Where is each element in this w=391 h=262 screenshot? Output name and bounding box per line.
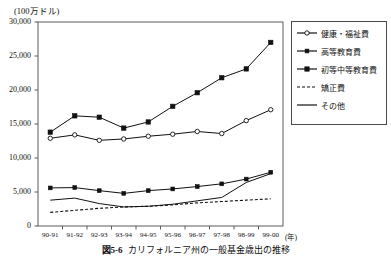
data-point-marker (305, 31, 309, 35)
data-point-marker (171, 104, 175, 108)
legend-item-label: その他 (321, 100, 345, 111)
data-point-marker (220, 76, 224, 80)
y-tick-label: 10,000 (0, 153, 31, 162)
y-tick-label: 5,000 (0, 187, 31, 196)
figure-container: (100万ドル) 健康・福祉費高等教育費初等中等教育費矯正費その他 図5-6カリ… (0, 0, 391, 262)
data-point-marker (305, 49, 309, 53)
data-point-marker (97, 115, 101, 119)
data-point-marker (73, 114, 77, 118)
y-tick-label: 30,000 (0, 17, 31, 26)
data-point-marker (220, 131, 224, 135)
legend-swatch-icon (296, 63, 318, 75)
data-point-marker (171, 187, 175, 191)
data-point-marker (146, 134, 150, 138)
data-point-marker (220, 182, 224, 186)
data-point-marker (48, 186, 52, 190)
data-point-marker (195, 129, 199, 133)
data-point-marker (244, 67, 248, 71)
data-point-marker (122, 137, 126, 141)
data-point-marker (244, 177, 248, 181)
series-line (50, 174, 271, 207)
data-point-marker (244, 118, 248, 122)
data-point-marker (122, 191, 126, 195)
data-point-marker (305, 67, 309, 71)
data-point-marker (171, 132, 175, 136)
caption-number: 図5-6 (102, 245, 123, 255)
legend-item-label: 初等中等教育費 (321, 64, 377, 75)
x-tick-label: 99-00 (255, 231, 287, 239)
legend-swatch-icon (296, 27, 318, 39)
legend-swatch-icon (296, 99, 318, 111)
data-point-marker (195, 91, 199, 95)
x-axis-unit-label: (年) (285, 231, 297, 242)
legend-swatch-icon (296, 81, 318, 93)
series-line (50, 42, 271, 132)
y-tick-label: 25,000 (0, 51, 31, 60)
figure-caption: 図5-6カリフォルニア州の一般基金歳出の推移 (0, 243, 391, 256)
caption-text: カリフォルニア州の一般基金歳出の推移 (128, 245, 290, 255)
data-point-marker (97, 189, 101, 193)
data-point-marker (97, 138, 101, 142)
data-point-marker (73, 186, 77, 190)
y-axis-unit-label: (100万ドル) (14, 4, 59, 16)
plot-frame (38, 22, 283, 226)
data-point-marker (146, 120, 150, 124)
legend-item-label: 矯正費 (321, 82, 345, 93)
data-point-marker (269, 108, 273, 112)
data-point-marker (48, 130, 52, 134)
series-line (50, 172, 271, 193)
y-tick-label: 15,000 (0, 119, 31, 128)
y-tick-label: 20,000 (0, 85, 31, 94)
legend-item-5: その他 (296, 98, 345, 112)
legend-item-2: 高等教育費 (296, 44, 361, 58)
legend-item-4: 矯正費 (296, 80, 345, 94)
y-tick-label: 0 (0, 221, 31, 230)
legend-item-3: 初等中等教育費 (296, 62, 377, 76)
chart-legend: 健康・福祉費高等教育費初等中等教育費矯正費その他 (291, 21, 387, 125)
data-point-marker (48, 136, 52, 140)
data-point-marker (73, 133, 77, 137)
legend-item-label: 健康・福祉費 (321, 28, 369, 39)
legend-swatch-icon (296, 45, 318, 57)
data-point-marker (195, 185, 199, 189)
data-point-marker (269, 40, 273, 44)
data-point-marker (146, 189, 150, 193)
legend-item-1: 健康・福祉費 (296, 26, 369, 40)
data-point-marker (122, 126, 126, 130)
legend-item-label: 高等教育費 (321, 46, 361, 57)
